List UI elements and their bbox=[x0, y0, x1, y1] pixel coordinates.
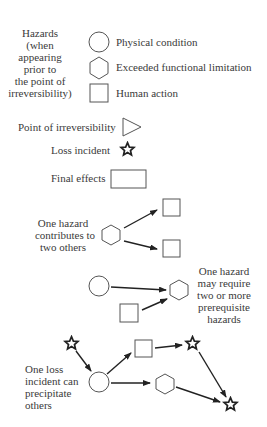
hazards-label-line: Hazards bbox=[22, 27, 58, 39]
circle-icon bbox=[89, 372, 109, 392]
legend-final-effects: Final effects bbox=[51, 172, 105, 184]
legend-loss-incident: Loss incident bbox=[51, 144, 110, 156]
example-caption-line: may require bbox=[198, 277, 251, 289]
example-caption-line: One hazard bbox=[38, 217, 89, 229]
star-icon bbox=[186, 337, 199, 349]
example-caption-line: incident can bbox=[25, 375, 79, 387]
arrow-icon bbox=[155, 345, 182, 348]
square-icon bbox=[90, 84, 108, 102]
square-icon bbox=[135, 340, 152, 357]
hexagon-icon bbox=[102, 225, 120, 245]
arrow-icon bbox=[76, 351, 91, 371]
hazards-label-line: appearing bbox=[18, 51, 62, 63]
circle-icon bbox=[89, 276, 109, 296]
hazards-label-line: irreversibility) bbox=[8, 87, 72, 100]
example-caption-line: two or more bbox=[197, 289, 251, 301]
star-icon bbox=[65, 337, 78, 349]
example-one-hazard-contributes: One hazard contributes to two others bbox=[35, 199, 180, 257]
arrow-icon bbox=[199, 352, 226, 397]
square-icon bbox=[120, 304, 138, 322]
hazard-diagram: Hazards (when appearing prior to the poi… bbox=[0, 0, 267, 427]
square-icon bbox=[163, 240, 180, 257]
legend-physical-condition: Physical condition bbox=[116, 36, 198, 48]
hexagon-icon bbox=[170, 280, 188, 300]
legend-human-action: Human action bbox=[116, 87, 179, 99]
star-icon bbox=[121, 143, 134, 155]
example-loss-incident-precipitates: One loss incident can precipitate others bbox=[25, 337, 237, 411]
circle-icon bbox=[89, 32, 109, 52]
arrow-icon bbox=[142, 299, 167, 310]
example-caption-line: others bbox=[25, 399, 52, 411]
hazards-label: Hazards (when appearing prior to the poi… bbox=[8, 27, 72, 100]
example-caption-line: One loss bbox=[25, 363, 63, 375]
hazards-label-line: the point of bbox=[15, 75, 66, 87]
arrow-icon bbox=[111, 287, 166, 290]
rectangle-icon bbox=[111, 170, 146, 188]
arrow-icon bbox=[124, 210, 157, 228]
example-caption-line: contributes to bbox=[35, 229, 96, 241]
example-caption-line: two others bbox=[40, 241, 86, 253]
star-icon bbox=[224, 398, 237, 410]
triangle-icon bbox=[123, 118, 141, 136]
legend-exceeded-functional-limitation: Exceeded functional limitation bbox=[116, 61, 252, 73]
legend-point-of-irreversibility: Point of irreversibility bbox=[18, 121, 116, 133]
example-caption-line: One hazard bbox=[199, 265, 250, 277]
example-caption-line: hazards bbox=[207, 313, 241, 325]
square-icon bbox=[163, 199, 180, 216]
hazards-label-line: prior to bbox=[24, 63, 57, 75]
arrow-icon bbox=[107, 353, 131, 374]
example-caption-line: precipitate bbox=[25, 387, 72, 399]
hexagon-icon bbox=[156, 374, 174, 394]
example-caption-line: prerequisite bbox=[198, 301, 250, 313]
hexagon-icon bbox=[90, 57, 108, 79]
example-one-hazard-requires: One hazard may require two or more prere… bbox=[89, 265, 251, 325]
arrow-icon bbox=[176, 387, 220, 402]
arrow-icon bbox=[124, 241, 157, 249]
